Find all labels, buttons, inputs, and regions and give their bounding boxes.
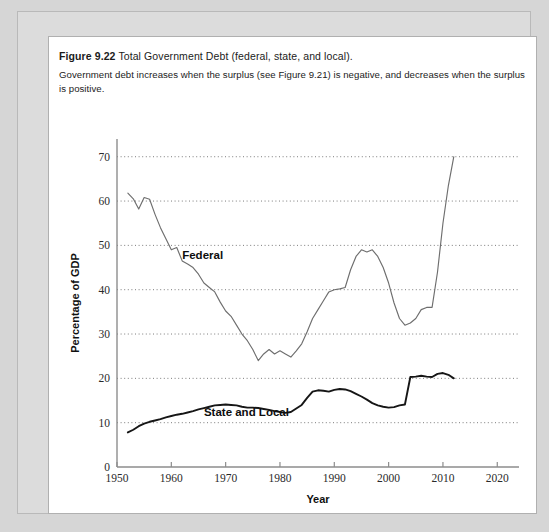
- y-tick-label-60: 60: [99, 195, 111, 207]
- figure-card: Figure 9.22 Total Government Debt (feder…: [48, 36, 537, 514]
- debt-line-chart: 010203040506070 195019601970198019902000…: [57, 121, 529, 507]
- y-tick-label-70: 70: [99, 151, 111, 163]
- figure-title: Total Government Debt (federal, state, a…: [118, 50, 352, 62]
- y-tick-label-10: 10: [99, 417, 111, 429]
- y-tick-labels-group: 010203040506070: [99, 151, 111, 473]
- x-tick-labels-group: 19501960197019801990200020102020: [106, 472, 510, 484]
- figure-caption: Figure 9.22 Total Government Debt (feder…: [59, 49, 525, 96]
- y-tick-label-30: 30: [99, 328, 111, 340]
- x-tick-label-1970: 1970: [214, 472, 237, 484]
- page-outer-frame: Figure 9.22 Total Government Debt (feder…: [17, 11, 531, 514]
- y-tick-label-20: 20: [99, 372, 111, 384]
- x-tick-label-1950: 1950: [106, 472, 129, 484]
- gridlines-group: [117, 157, 519, 423]
- x-tick-marks-group: [117, 462, 497, 467]
- x-tick-label-2000: 2000: [377, 472, 400, 484]
- series-label-federal: Federal: [182, 249, 223, 261]
- figure-number: Figure 9.22: [59, 50, 116, 62]
- series-line-state-and-local: [128, 373, 454, 432]
- series-line-federal: [128, 157, 454, 361]
- x-tick-label-1960: 1960: [160, 472, 183, 484]
- x-tick-label-2020: 2020: [486, 472, 509, 484]
- series-label-state-and-local: State and Local: [204, 406, 289, 418]
- caption-title-line: Figure 9.22 Total Government Debt (feder…: [59, 49, 525, 64]
- y-tick-label-50: 50: [99, 239, 111, 251]
- y-axis-title: Percentage of GDP: [69, 253, 81, 353]
- axes-group: [117, 139, 519, 467]
- chart-container: 010203040506070 195019601970198019902000…: [57, 121, 529, 507]
- data-series-group: [128, 157, 454, 433]
- x-tick-label-1990: 1990: [323, 472, 346, 484]
- x-axis-title: Year: [306, 493, 330, 505]
- x-tick-label-2010: 2010: [431, 472, 454, 484]
- y-tick-label-40: 40: [99, 284, 111, 296]
- page-background: Figure 9.22 Total Government Debt (feder…: [0, 0, 549, 532]
- caption-body: Government debt increases when the surpl…: [59, 68, 525, 96]
- x-tick-label-1980: 1980: [268, 472, 291, 484]
